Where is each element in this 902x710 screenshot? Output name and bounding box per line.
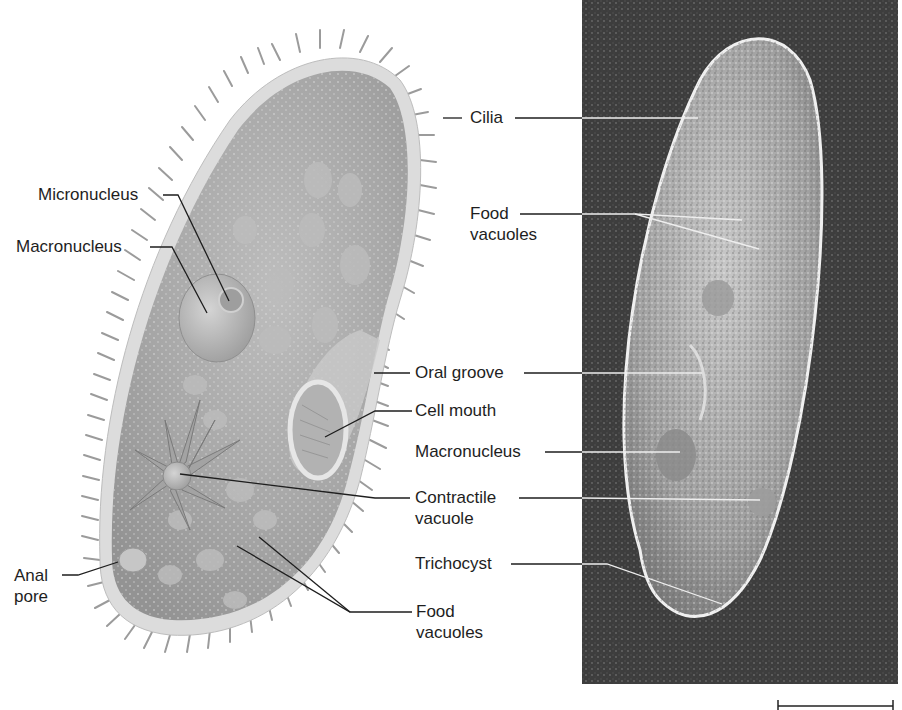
label-food-vacuoles-bottom: Food vacuoles <box>416 601 483 643</box>
label-food-vacuoles-top-line1: Food <box>470 203 537 224</box>
label-cilia: Cilia <box>470 107 503 128</box>
label-anal-pore: Anal pore <box>14 565 48 607</box>
scale-bar <box>778 700 893 710</box>
label-anal-pore-line2: pore <box>14 586 48 607</box>
paramecium-figure: Micronucleus Macronucleus Anal pore Cili… <box>0 0 902 710</box>
label-macronucleus: Macronucleus <box>16 236 122 257</box>
label-contractile-vacuole-line1: Contractile <box>415 487 496 508</box>
anal-pore-shape <box>119 548 147 572</box>
label-contractile-vacuole-line2: vacuole <box>415 508 496 529</box>
label-micronucleus: Micronucleus <box>38 184 138 205</box>
micronucleus-shape <box>219 288 243 312</box>
label-macronucleus-photo: Macronucleus <box>415 441 521 462</box>
label-trichocyst: Trichocyst <box>415 553 492 574</box>
label-anal-pore-line1: Anal <box>14 565 48 586</box>
label-oral-groove: Oral groove <box>415 362 504 383</box>
micrograph-specimen <box>582 0 898 684</box>
label-cell-mouth: Cell mouth <box>415 400 496 421</box>
label-contractile-vacuole: Contractile vacuole <box>415 487 496 529</box>
label-food-vacuoles-top-line2: vacuoles <box>470 224 537 245</box>
label-food-vacuoles-top: Food vacuoles <box>470 203 537 245</box>
label-food-vacuoles-bottom-line2: vacuoles <box>416 622 483 643</box>
macronucleus-shape <box>179 274 255 362</box>
label-food-vacuoles-bottom-line1: Food <box>416 601 483 622</box>
